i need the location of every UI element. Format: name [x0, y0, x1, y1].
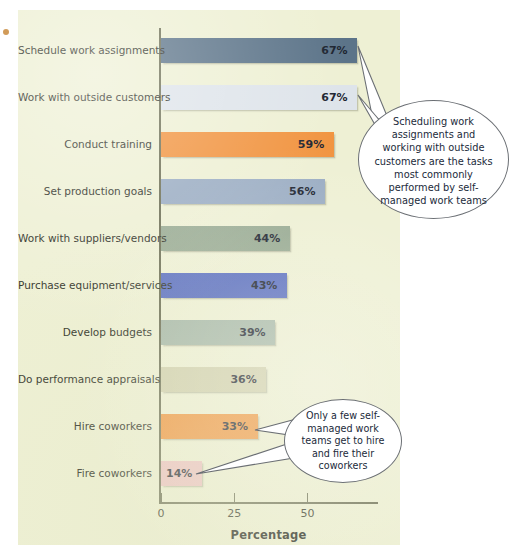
bar-value-label: 56% [289, 179, 315, 204]
x-tick-label-25: 25 [227, 507, 241, 520]
x-axis-title: Percentage [159, 528, 378, 542]
x-tick-25 [234, 493, 236, 503]
x-tick-label-0: 0 [158, 507, 165, 520]
decorative-dot [3, 29, 9, 35]
bar-value-label: 39% [239, 320, 265, 345]
category-label-fire-coworkers: Fire coworkers [18, 461, 152, 486]
bar-value-label: 59% [298, 132, 324, 157]
x-tick-label-50: 50 [301, 507, 315, 520]
chart-page: 02550 67%67%59%56%44%43%39%36%33%14% Sch… [0, 0, 509, 558]
category-label-conduct-training: Conduct training [18, 132, 152, 157]
bar-value-label: 67% [321, 38, 347, 63]
category-label-work-with-outside-customers: Work with outside customers [18, 85, 152, 110]
bar-value-label: 44% [254, 226, 280, 251]
callout-bubble-top: Scheduling work assignments and working … [358, 100, 509, 219]
bar-value-label: 33% [222, 414, 248, 439]
category-label-work-with-suppliers-vendors: Work with suppliers/vendors [18, 226, 152, 251]
x-tick-50 [307, 493, 309, 503]
x-tick-0 [160, 493, 162, 503]
x-axis-line [159, 502, 378, 504]
callout-bubble-bottom: Only a few self-managed work teams get t… [284, 399, 402, 483]
category-label-develop-budgets: Develop budgets [18, 320, 152, 345]
category-label-hire-coworkers: Hire coworkers [18, 414, 152, 439]
category-label-do-performance-appraisals: Do performance appraisals [18, 367, 152, 392]
bar-value-label: 43% [251, 273, 277, 298]
category-label-purchase-equipment-services: Purchase equipment/services [18, 273, 152, 298]
category-label-set-production-goals: Set production goals [18, 179, 152, 204]
bar-value-label: 36% [230, 367, 256, 392]
category-label-schedule-work-assignments: Schedule work assignments [18, 38, 152, 63]
bar-value-label: 14% [166, 461, 192, 486]
bar-value-label: 67% [321, 85, 347, 110]
